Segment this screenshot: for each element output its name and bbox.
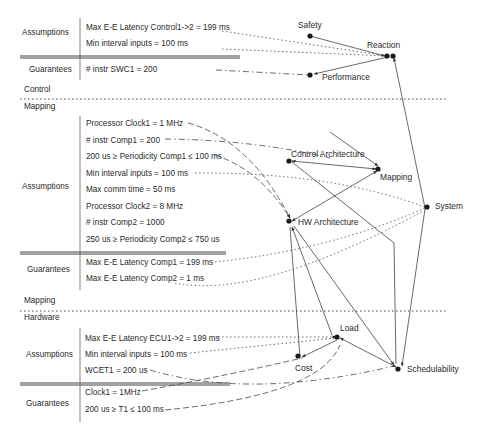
- node-dot-control-architecture: [286, 158, 291, 163]
- mapping-assumption-3: 200 us ≥ Periodicity Comp1 ≤ 100 ms: [86, 153, 222, 161]
- node-cost: Cost: [295, 364, 312, 372]
- mapping-guarantee-2: Max E-E Latency Comp2 = 1 ms: [86, 275, 204, 283]
- control-assumption-2: Min interval inputs = 100 ms: [86, 40, 188, 48]
- layer-label-mapping-2: Mapping: [24, 297, 55, 305]
- node-dot-safety: [307, 33, 312, 38]
- node-control-architecture: Control Architecture: [291, 150, 365, 158]
- mapping-assumption-1: Processor Clock1 = 1 MHz: [86, 120, 183, 128]
- layer-label-control: Control: [24, 86, 50, 94]
- node-dot-reaction-b: [390, 53, 395, 58]
- mapping-assumption-5: Max comm time = 50 ms: [86, 186, 175, 194]
- mapping-assumptions-label: Assumptions: [22, 183, 69, 191]
- hardware-guarantee-1: Clock1 = 1MHz: [85, 389, 141, 397]
- hardware-guarantee-2: 200 us ≥ T1 ≤ 100 ms: [85, 406, 164, 414]
- node-dot-system: [424, 204, 429, 209]
- mapping-assumption-2: # instr Comp1 = 200: [86, 137, 160, 145]
- hardware-guarantees-label: Guarantees: [26, 400, 69, 408]
- node-dot-hw-architecture: [286, 218, 291, 223]
- layer-label-hardware: Hardware: [24, 314, 60, 322]
- control-guarantees-label: Guarantees: [29, 66, 72, 74]
- mapping-assumption-7: # instr Comp2 = 1000: [86, 219, 165, 227]
- hardware-assumptions-label: Assumptions: [26, 351, 73, 359]
- node-dot-cost: [295, 353, 300, 358]
- node-mapping: Mapping: [380, 173, 412, 181]
- node-safety: Safety: [298, 21, 322, 29]
- node-reaction: Reaction: [367, 41, 400, 49]
- control-assumptions-label: Assumptions: [22, 29, 69, 37]
- node-dot-mapping: [375, 166, 380, 171]
- node-dot-reaction-a: [384, 53, 389, 58]
- mapping-assumption-6: Processor Clock2 = 8 MHz: [86, 203, 183, 211]
- node-system: System: [435, 202, 463, 210]
- hardware-assumption-2: Min interval inputs = 100 ms: [85, 351, 187, 359]
- hardware-assumption-3: WCET1 = 200 us: [85, 367, 148, 375]
- hardware-assumption-1: Max E-E Latency ECU1->2 = 199 ms: [85, 335, 220, 343]
- node-hw-architecture: HW Architecture: [298, 218, 359, 226]
- mapping-guarantees-label: Guarantees: [27, 266, 70, 274]
- node-performance: Performance: [322, 73, 370, 81]
- control-assumption-1: Max E-E Latency Control1->2 = 199 ms: [86, 24, 230, 32]
- mapping-guarantee-1: Max E-E Latency Comp1 = 199 ms: [86, 259, 213, 267]
- node-dot-schedulability: [395, 366, 400, 371]
- node-load: Load: [340, 324, 359, 332]
- control-guarantee-1: # instr SWC1 = 200: [86, 66, 157, 74]
- mapping-assumption-8: 250 us ≥ Periodicity Comp2 ≤ 750 us: [86, 236, 220, 244]
- node-schedulability: Schedulability: [407, 365, 459, 373]
- node-dot-performance: [307, 72, 312, 77]
- node-dot-load: [334, 334, 339, 339]
- layer-label-mapping: Mapping: [24, 103, 55, 111]
- mapping-assumption-4: Min interval inputs = 100 ms: [86, 170, 188, 178]
